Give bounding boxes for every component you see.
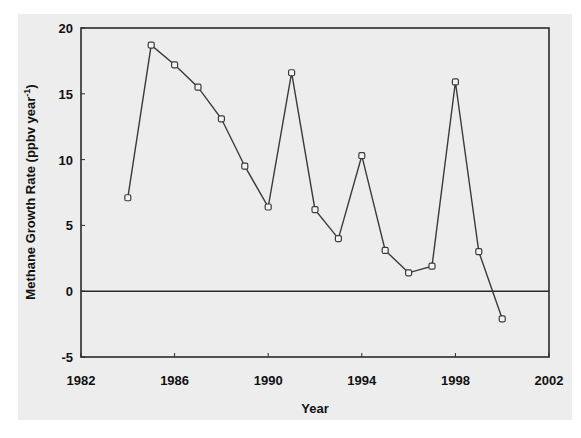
- data-point-marker: [265, 204, 271, 210]
- plot-frame: [81, 28, 549, 357]
- y-tick-label: -5: [61, 350, 73, 365]
- x-tick-label: 1982: [67, 373, 96, 388]
- series-line: [128, 45, 502, 319]
- y-axis-label: Methane Growth Rate (ppbv year-1): [22, 84, 38, 299]
- x-tick-label: 1998: [441, 373, 470, 388]
- data-point-marker: [452, 79, 458, 85]
- data-point-marker: [289, 70, 295, 76]
- data-series: [125, 42, 505, 322]
- data-point-marker: [382, 247, 388, 253]
- x-tick-label: 1990: [254, 373, 283, 388]
- y-tick-label: 20: [59, 21, 73, 36]
- data-point-marker: [125, 195, 131, 201]
- data-point-marker: [406, 270, 412, 276]
- y-axis-label-superscript: -1: [22, 89, 32, 97]
- data-point-marker: [359, 153, 365, 159]
- data-point-marker: [499, 316, 505, 322]
- x-axis-label: Year: [301, 401, 328, 416]
- plot-axes: [81, 28, 549, 357]
- data-point-marker: [429, 263, 435, 269]
- data-point-marker: [476, 249, 482, 255]
- y-tick-label: 10: [59, 153, 73, 168]
- y-axis-label-main: Methane Growth Rate (ppbv year: [23, 97, 38, 300]
- y-tick-label: 5: [66, 218, 73, 233]
- y-axis-label-close: ): [23, 84, 38, 88]
- data-point-marker: [172, 62, 178, 68]
- x-tick-label: 1986: [160, 373, 189, 388]
- x-tick-label: 1994: [347, 373, 377, 388]
- data-point-marker: [195, 84, 201, 90]
- data-point-marker: [335, 236, 341, 242]
- data-point-marker: [148, 42, 154, 48]
- line-chart: -505101520 198219861990199419982002 Year…: [0, 0, 581, 438]
- x-tick-label: 2002: [535, 373, 564, 388]
- data-point-marker: [312, 207, 318, 213]
- data-point-marker: [242, 163, 248, 169]
- data-point-marker: [218, 116, 224, 122]
- x-axis-ticks: 198219861990199419982002: [67, 353, 564, 388]
- y-tick-label: 0: [66, 284, 73, 299]
- y-tick-label: 15: [59, 87, 73, 102]
